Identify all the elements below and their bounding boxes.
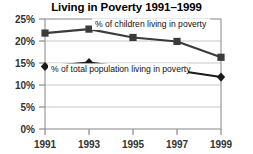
data-point-marker-square <box>173 38 180 45</box>
y-axis-tick-label: 25% <box>15 14 35 25</box>
x-axis-tick-label: 1993 <box>78 139 101 150</box>
poverty-line-chart: Living in Poverty 1991–1999 0%5%10%15%20… <box>0 0 253 154</box>
y-axis-tick-label: 5% <box>21 102 36 113</box>
data-point-marker-square <box>129 34 136 41</box>
data-point-marker-square <box>217 54 224 61</box>
x-axis-tick-label: 1995 <box>122 139 145 150</box>
y-axis-labels: 0%5%10%15%20%25% <box>15 14 35 135</box>
y-axis-tick-label: 15% <box>15 58 35 69</box>
series-annotation-label: % of children living in poverty <box>95 19 207 29</box>
data-point-marker-square <box>41 29 48 36</box>
x-axis-labels: 19911993199519971999 <box>34 139 233 150</box>
series-annotation-label: % of total population living in poverty <box>51 64 191 74</box>
y-axis-tick-label: 10% <box>15 80 35 91</box>
data-point-marker-square <box>85 26 92 33</box>
chart-plot-area: 0%5%10%15%20%25% 19911993199519971999 % … <box>0 0 253 154</box>
y-axis-tick-label: 0% <box>21 124 36 135</box>
x-axis-tick-label: 1999 <box>210 139 233 150</box>
y-axis-tick-label: 20% <box>15 36 35 47</box>
x-axis-ticks <box>45 129 221 135</box>
x-axis-tick-label: 1997 <box>166 139 189 150</box>
x-axis-tick-label: 1991 <box>34 139 57 150</box>
